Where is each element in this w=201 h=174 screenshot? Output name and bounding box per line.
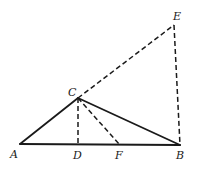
segment-AB — [20, 144, 180, 145]
label-D: D — [72, 149, 82, 162]
geometry-diagram: A D F B C E — [0, 0, 201, 174]
segment-CF — [78, 98, 119, 144]
segment-EB — [174, 25, 180, 145]
segment-AC — [20, 98, 78, 144]
segment-CE — [78, 25, 174, 98]
label-A: A — [9, 148, 18, 161]
label-E: E — [172, 10, 181, 23]
label-C: C — [68, 86, 77, 99]
label-F: F — [114, 149, 123, 162]
label-B: B — [175, 149, 184, 162]
segment-CB — [78, 98, 180, 145]
